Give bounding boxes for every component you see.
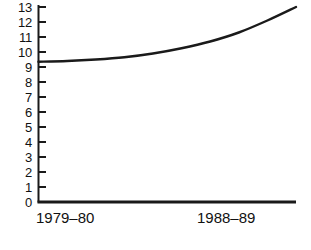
x-tick-label-start: 1979–80 — [36, 210, 94, 226]
x-tick-label-end: 1988–89 — [197, 210, 255, 226]
data-series-line — [39, 7, 297, 62]
line-chart: 13 12 11 10 9 8 7 6 5 4 3 2 1 0 — [0, 0, 311, 250]
